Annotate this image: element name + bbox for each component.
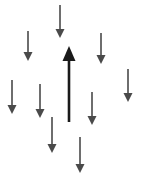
canvas-background [0,0,143,180]
diagram-canvas [0,0,143,180]
arrows-diagram [0,0,143,180]
